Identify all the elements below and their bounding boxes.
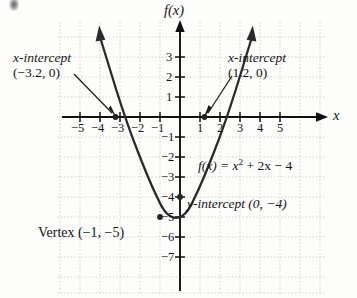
annotation-x-intercept-right: x-intercept (1.2, 0) xyxy=(228,50,286,80)
x-tick-label--2: −2 xyxy=(131,121,144,136)
x-tick-label-5: 5 xyxy=(277,121,283,136)
curve-arrow-right xyxy=(247,26,257,42)
x-tick-label--5: −5 xyxy=(71,121,84,136)
curve-arrow-left xyxy=(96,26,106,42)
annotation-x-intercept-left: x-intercept (−3.2, 0) xyxy=(13,50,71,80)
x-axis-label: x xyxy=(333,107,339,123)
x-tick-label-3: 3 xyxy=(237,121,243,136)
y-tick-label-3: 3 xyxy=(166,50,172,65)
y-tick-label--3: −3 xyxy=(161,170,174,185)
y-axis xyxy=(175,20,185,291)
x-tick-label--4: −4 xyxy=(91,121,104,136)
x-intercept-right-dot xyxy=(202,114,208,120)
y-tick-label--4: −4 xyxy=(161,190,174,205)
y-tick-label-1: 1 xyxy=(166,90,172,105)
y-tick-label--5: −5 xyxy=(161,210,174,225)
y-tick-label--2: −2 xyxy=(161,150,174,165)
y-tick-label-2: 2 xyxy=(166,70,172,85)
annotation-vertex: Vertex (−1, −5) xyxy=(38,225,124,241)
x-tick-label-4: 4 xyxy=(257,121,263,136)
equation-lead: f(x) = x xyxy=(198,158,239,173)
x-tick-label-1: 1 xyxy=(197,121,203,136)
y-tick-label--6: −6 xyxy=(161,230,174,245)
x-intercept-right-line1: x-intercept xyxy=(228,50,286,65)
leader-lines xyxy=(74,74,232,118)
annotation-equation: f(x) = x2 + 2x − 4 xyxy=(198,158,292,173)
x-intercept-left-line1: x-intercept xyxy=(13,50,71,65)
x-intercept-left-dot xyxy=(113,114,119,120)
equation-tail: + 2x − 4 xyxy=(243,158,292,173)
y-intercept-dot xyxy=(177,194,183,200)
annotation-y-intercept: y-intercept (0, −4) xyxy=(187,196,287,211)
y-axis-label: f(x) xyxy=(164,2,184,18)
vertex-text: Vertex (−1, −5) xyxy=(38,225,124,240)
y-tick-label--1: −1 xyxy=(161,130,174,145)
x-intercept-right-line2: (1.2, 0) xyxy=(228,65,267,80)
coordinate-plane xyxy=(0,0,357,298)
x-tick-label-2: 2 xyxy=(217,121,223,136)
x-tick-label--3: −3 xyxy=(111,121,124,136)
y-intercept-text: y-intercept (0, −4) xyxy=(187,196,287,211)
y-tick-label--7: −7 xyxy=(161,250,174,265)
quadratic-graph-figure: f(x) x −5 −4 −3 −2 −1 1 2 3 4 5 3 2 1 −1… xyxy=(0,0,357,298)
x-intercept-left-line2: (−3.2, 0) xyxy=(13,65,60,80)
